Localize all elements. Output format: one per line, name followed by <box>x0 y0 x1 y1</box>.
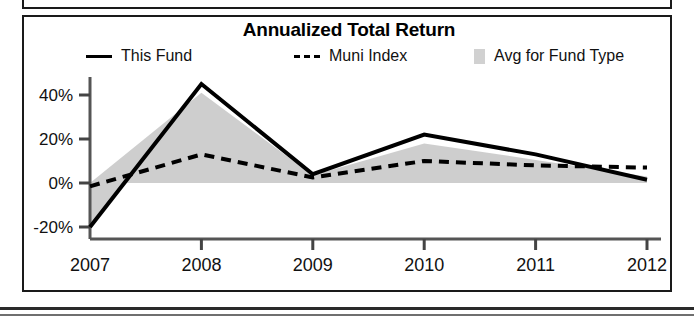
annualized-total-return-chart: Annualized Total Return This Fund Muni I… <box>22 15 672 292</box>
chart-screenshot: Annualized Total Return This Fund Muni I… <box>0 0 694 317</box>
x-axis-tick-label: 2009 <box>293 255 333 275</box>
x-axis-tick-label: 2011 <box>516 255 555 275</box>
y-axis-tick-label: 40% <box>39 86 73 105</box>
y-axis-tick-label: 20% <box>39 130 73 149</box>
y-axis-tick-label: 0% <box>48 174 73 193</box>
x-axis-tick-label: 2008 <box>181 255 221 275</box>
y-axis-tick-labels: 40%20%0%-20% <box>33 86 73 237</box>
adjacent-panel-bottom-edge <box>22 0 672 9</box>
page-divider-rule-secondary <box>0 314 694 316</box>
chart-plot-svg: 40%20%0%-20% 200720082009201020112012YTD <box>24 17 670 290</box>
x-axis-tick-label: 2010 <box>404 255 444 275</box>
y-axis-tick-label: -20% <box>33 218 73 237</box>
page-divider-rule <box>0 307 694 310</box>
x-axis-tick-labels: 200720082009201020112012YTD <box>70 255 670 275</box>
x-axis-tick-label: 2012 <box>627 255 667 275</box>
plot-area: 40%20%0%-20% 200720082009201020112012YTD <box>24 17 670 290</box>
area-fill-avg-for-fund-type <box>90 93 647 183</box>
x-axis-tick-label: 2007 <box>70 255 110 275</box>
